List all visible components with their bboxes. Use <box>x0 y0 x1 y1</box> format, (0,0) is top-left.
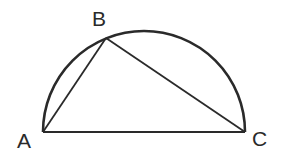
segment-bc <box>106 38 245 132</box>
semicircle-arc <box>43 31 245 132</box>
label-a: A <box>17 129 31 152</box>
segment-ab <box>43 38 106 132</box>
label-b: B <box>92 7 106 30</box>
label-c: C <box>252 127 267 150</box>
geometry-diagram: A B C <box>0 0 282 156</box>
